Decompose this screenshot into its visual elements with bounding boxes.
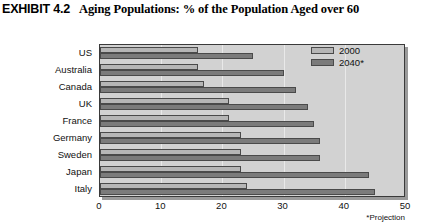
bar-sweden-2040 (100, 155, 320, 161)
x-tick-40: 40 (339, 200, 350, 211)
x-tick-0: 0 (96, 200, 101, 211)
bar-australia-2040 (100, 70, 284, 76)
x-tick-50: 50 (400, 200, 411, 211)
bar-france-2040 (100, 121, 314, 127)
legend-swatch-2000-icon (311, 47, 334, 54)
legend-swatch-2040-icon (311, 59, 334, 66)
bar-canada-2040 (100, 87, 296, 93)
footnote: *Projection (366, 213, 405, 222)
category-label-us: US (79, 44, 92, 61)
bar-japan-2040 (100, 172, 369, 178)
bar-italy-2040 (100, 189, 375, 195)
exhibit-number: EXHIBIT 4.2 (2, 2, 70, 16)
x-tick-20: 20 (216, 200, 227, 211)
bar-group (100, 130, 404, 147)
category-label-uk: UK (79, 95, 92, 112)
category-label-japan: Japan (66, 163, 92, 180)
exhibit-header: EXHIBIT 4.2 Aging Populations: % of the … (2, 2, 422, 18)
bar-group (100, 181, 404, 198)
page-title: Aging Populations: % of the Population A… (79, 2, 359, 17)
category-label-germany: Germany (53, 129, 92, 146)
category-label-italy: Italy (75, 180, 92, 197)
legend-item-2000: 2000 (311, 45, 383, 56)
legend-item-2040: 2040* (311, 57, 383, 68)
legend-label-2000: 2000 (339, 45, 360, 56)
x-tick-10: 10 (155, 200, 166, 211)
bar-chart: USAustraliaCanadaUKFranceGermanySwedenJa… (0, 20, 424, 224)
chart-legend: 2000 2040* (311, 45, 383, 69)
category-label-sweden: Sweden (58, 146, 92, 163)
bar-uk-2040 (100, 104, 308, 110)
bar-group (100, 96, 404, 113)
legend-label-2040: 2040* (339, 57, 364, 68)
category-axis-labels: USAustraliaCanadaUKFranceGermanySwedenJa… (0, 44, 96, 197)
value-axis: *Projection 01020304050 (99, 197, 405, 217)
category-label-france: France (62, 112, 92, 129)
bar-group (100, 79, 404, 96)
bar-group (100, 147, 404, 164)
x-tick-30: 30 (277, 200, 288, 211)
bar-group (100, 164, 404, 181)
category-label-australia: Australia (55, 61, 92, 78)
bar-group (100, 113, 404, 130)
bar-us-2040 (100, 53, 253, 59)
category-label-canada: Canada (59, 78, 92, 95)
bar-germany-2040 (100, 138, 320, 144)
